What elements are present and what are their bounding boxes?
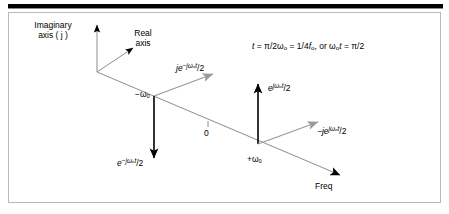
equation-annotation: t = π/2ωo = 1/4fo, or ωot = π/2	[252, 41, 364, 51]
equation-seg2: = π/2ω	[254, 41, 283, 51]
origin-label: 0	[204, 128, 209, 138]
phasor-label-je-pos-tail: /2	[339, 126, 346, 136]
positive-frequency-label: +ωₒ	[247, 154, 262, 164]
phasor-negative-imag	[154, 74, 213, 96]
equation-seg3: = 1/4	[287, 41, 309, 51]
phasor-label-je-neg-exponent: −jωₒt	[183, 62, 197, 69]
real-axis	[97, 48, 133, 72]
real-axis-label: Real axis	[123, 28, 163, 48]
phasor-label-e-neg: e−jωₒt/2	[117, 157, 143, 168]
phasor-label-je-neg-base: je	[176, 63, 183, 73]
phasor-positive-imag	[258, 122, 318, 144]
negative-frequency-label: −ωₒ	[135, 89, 150, 99]
phasor-label-je-neg: je−jωₒt/2	[176, 62, 204, 73]
equation-seg5: , or ω	[314, 41, 335, 51]
phasor-label-je-pos-exponent: jωₒt	[329, 125, 340, 132]
imaginary-axis-label: Imaginary axis ( j )	[22, 20, 84, 40]
phasor-label-e-pos-tail: /2	[283, 83, 290, 93]
phasor-label-e-neg-exponent: −jωₒt	[122, 157, 136, 164]
phasor-label-e-pos: ejωₒt/2	[268, 82, 291, 93]
phasor-label-je-neg-tail: /2	[197, 63, 204, 73]
equation-seg7: = π/2	[342, 41, 365, 51]
real-axis-label-line2: axis	[135, 38, 150, 48]
phasor-label-je-pos: −jejωₒt/2	[317, 125, 346, 136]
phasor-label-e-neg-tail: /2	[136, 158, 143, 168]
real-axis-label-line1: Real	[134, 28, 151, 38]
phasor-label-e-pos-exponent: jωₒt	[273, 82, 284, 89]
phasor-label-je-pos-base: −je	[317, 126, 329, 136]
frequency-axis-label: Freq	[315, 181, 332, 191]
figure-root: Imaginary axis ( j ) Real axis t = π/2ωo…	[0, 0, 449, 214]
imaginary-axis-label-line1: Imaginary	[34, 20, 71, 30]
imaginary-axis-label-line2: axis ( j )	[38, 30, 68, 40]
